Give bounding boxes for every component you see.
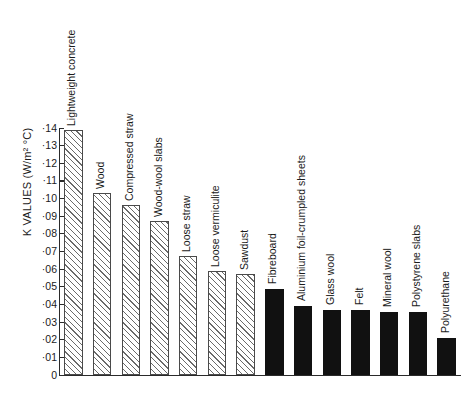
bar-label: Polyurethane	[436, 271, 447, 333]
y-tick-label-wrap: ·11	[26, 175, 57, 186]
bar: Felt	[351, 310, 370, 375]
y-tick-label-wrap: ·07	[26, 246, 57, 257]
bar-label: Glass wool	[321, 253, 332, 304]
bar: Fibreboard	[265, 289, 284, 375]
bar: Sawdust	[236, 274, 255, 375]
bar-label-text: Aluminium foil-crumpled sheets	[296, 155, 307, 301]
y-tick-label-wrap: ·01	[26, 352, 57, 363]
bar: Mineral wool	[380, 312, 399, 375]
y-tick-label-wrap: 0	[26, 370, 57, 381]
bar-label-text: Loose straw	[181, 195, 192, 252]
y-tick-label: ·07	[31, 246, 57, 257]
bar-label: Felt	[350, 287, 361, 305]
bar-label-text: Loose vermiculite	[210, 185, 221, 267]
y-tick-label-wrap: ·05	[26, 281, 57, 292]
bar-label: Wood-wool slabs	[149, 137, 160, 217]
bar-label: Loose straw	[177, 195, 188, 252]
bar-label-text: Compressed straw	[124, 113, 135, 201]
bar-label-text: Wood-wool slabs	[153, 137, 164, 217]
bar: Polystyrene slabs	[409, 312, 428, 375]
y-tick-label-wrap: ·06	[26, 264, 57, 275]
y-tick-label-wrap: ·03	[26, 317, 57, 328]
bar-label: Aluminium foil-crumpled sheets	[292, 155, 303, 301]
y-tick-label: ·06	[31, 264, 57, 275]
bar-label-text: Polyurethane	[440, 271, 451, 333]
y-tick-label: ·12	[31, 158, 57, 169]
bar-label-text: Polystyrene slabs	[411, 225, 422, 307]
bar-label: Wood	[91, 162, 102, 189]
bar: Wood-wool slabs	[150, 221, 169, 375]
y-tick-label-wrap: ·10	[26, 193, 57, 204]
y-tick-label-wrap: ·08	[26, 228, 57, 239]
y-tick-label: ·05	[31, 281, 57, 292]
y-tick-label-wrap: ·13	[26, 140, 57, 151]
y-tick-label-wrap: ·09	[26, 211, 57, 222]
y-tick-label: ·10	[31, 193, 57, 204]
bar: Compressed straw	[122, 205, 141, 375]
y-tick-label: ·03	[31, 317, 57, 328]
bar-label-text: Sawdust	[239, 229, 250, 269]
y-tick-label-wrap: ·02	[26, 334, 57, 345]
bar-label: Sawdust	[235, 229, 246, 269]
bar-label: Polystyrene slabs	[407, 225, 418, 307]
bar-label-text: Glass wool	[325, 253, 336, 304]
bar: Glass wool	[323, 310, 342, 375]
k-values-bar-chart: K VALUES (W/m² °C) ·14·13·12·11·10·09·08…	[0, 0, 471, 402]
y-tick-label: ·09	[31, 211, 57, 222]
bar-label: Fibreboard	[263, 234, 274, 285]
bar: Polyurethane	[437, 338, 456, 375]
bar-label: Compressed straw	[120, 113, 131, 201]
y-tick-label-wrap: ·12	[26, 158, 57, 169]
y-tick-label: ·13	[31, 140, 57, 151]
y-tick-label: ·11	[31, 175, 57, 186]
bar-label-text: Lightweight concrete	[66, 29, 77, 125]
y-tick-label: ·01	[31, 352, 57, 363]
bar: Loose vermiculite	[208, 271, 227, 375]
bar-label-text: Fibreboard	[267, 234, 278, 285]
bar-label-text: Mineral wool	[382, 248, 393, 307]
bar-label: Mineral wool	[378, 248, 389, 307]
bar-label: Lightweight concrete	[62, 29, 73, 125]
y-tick-label-wrap: ·04	[26, 299, 57, 310]
y-tick-label: ·02	[31, 334, 57, 345]
bar: Wood	[93, 193, 112, 375]
y-tick-label: ·14	[31, 123, 57, 134]
bar: Aluminium foil-crumpled sheets	[294, 306, 313, 375]
bar: Lightweight concrete	[64, 130, 83, 375]
y-tick-label: ·08	[31, 228, 57, 239]
bar-label-text: Felt	[354, 287, 365, 305]
y-tick-label-wrap: ·14	[26, 123, 57, 134]
bar: Loose straw	[179, 256, 198, 375]
y-tick-label: 0	[31, 370, 57, 381]
plot-area: Lightweight concreteWoodCompressed straw…	[59, 128, 461, 375]
y-tick-label: ·04	[31, 299, 57, 310]
bar-label-text: Wood	[95, 162, 106, 189]
bar-label: Loose vermiculite	[206, 185, 217, 267]
